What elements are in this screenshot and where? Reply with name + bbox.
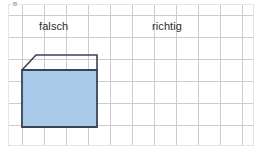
worksheet-canvas: falsch richtig: [0, 0, 262, 150]
column-label-falsch: falsch: [39, 21, 68, 32]
prism-front-face: [22, 70, 97, 127]
prism-top-face-outline: [22, 55, 97, 70]
column-label-richtig: richtig: [152, 21, 182, 32]
